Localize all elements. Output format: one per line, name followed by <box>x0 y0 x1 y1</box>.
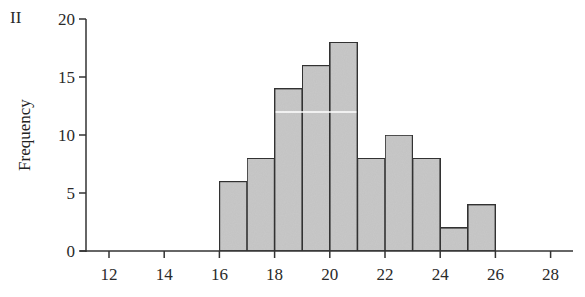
x-tick-label: 12 <box>101 265 118 284</box>
y-tick-label: 10 <box>58 126 75 145</box>
histogram-bar <box>385 135 413 251</box>
histogram-bar <box>302 65 330 251</box>
histogram-bar <box>468 205 496 251</box>
x-tick-label: 22 <box>377 265 394 284</box>
x-tick-label: 14 <box>156 265 174 284</box>
x-tick-label: 20 <box>321 265 338 284</box>
y-tick-label: 15 <box>58 68 75 87</box>
histogram-bar <box>440 228 468 251</box>
y-tick-label: 20 <box>58 10 75 29</box>
histogram-bar <box>247 158 275 251</box>
y-tick-label: 5 <box>67 184 76 203</box>
y-tick-label: 0 <box>67 242 76 261</box>
histogram-bar <box>413 158 441 251</box>
x-tick-label: 24 <box>432 265 450 284</box>
histogram-bars <box>219 42 495 251</box>
histogram-bar <box>357 158 385 251</box>
x-tick-label: 18 <box>266 265 283 284</box>
histogram-chart: 05101520121416182022242628 <box>0 0 585 297</box>
histogram-bar <box>330 42 358 251</box>
x-tick-label: 28 <box>542 265 559 284</box>
histogram-bar <box>219 181 247 251</box>
histogram-bar <box>275 89 303 251</box>
x-tick-label: 16 <box>211 265 228 284</box>
x-tick-label: 26 <box>487 265 504 284</box>
